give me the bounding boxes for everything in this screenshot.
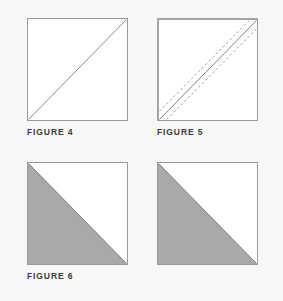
figure-5-dashed-guide-lower xyxy=(167,29,257,120)
figure-sheet: FIGURE 4 FIGURE 5 FIGURE 6 xyxy=(0,0,283,301)
figure-6-shaded-triangle-icon xyxy=(28,163,127,264)
figure-5-caption: FIGURE 5 xyxy=(157,127,203,137)
figure-6-cell xyxy=(27,162,128,265)
figure-4-square xyxy=(27,18,128,121)
figure-5-diagonal-and-guides-icon xyxy=(159,20,257,120)
figure-unlabeled-shaded-triangle-icon xyxy=(158,163,257,264)
figure-4-diagonal-icon xyxy=(28,19,127,120)
figure-4-cell xyxy=(27,18,128,121)
figure-5-square xyxy=(157,18,258,121)
figure-unlabeled-square xyxy=(157,162,258,265)
figure-5-dashed-guide-upper xyxy=(159,20,249,111)
figure-5-solid-diagonal xyxy=(159,20,256,119)
figure-6-square xyxy=(27,162,128,265)
figure-6-caption: FIGURE 6 xyxy=(27,271,73,281)
figure-5-cell xyxy=(157,18,258,121)
figure-4-caption: FIGURE 4 xyxy=(27,127,73,137)
figure-unlabeled-cell xyxy=(157,162,258,265)
